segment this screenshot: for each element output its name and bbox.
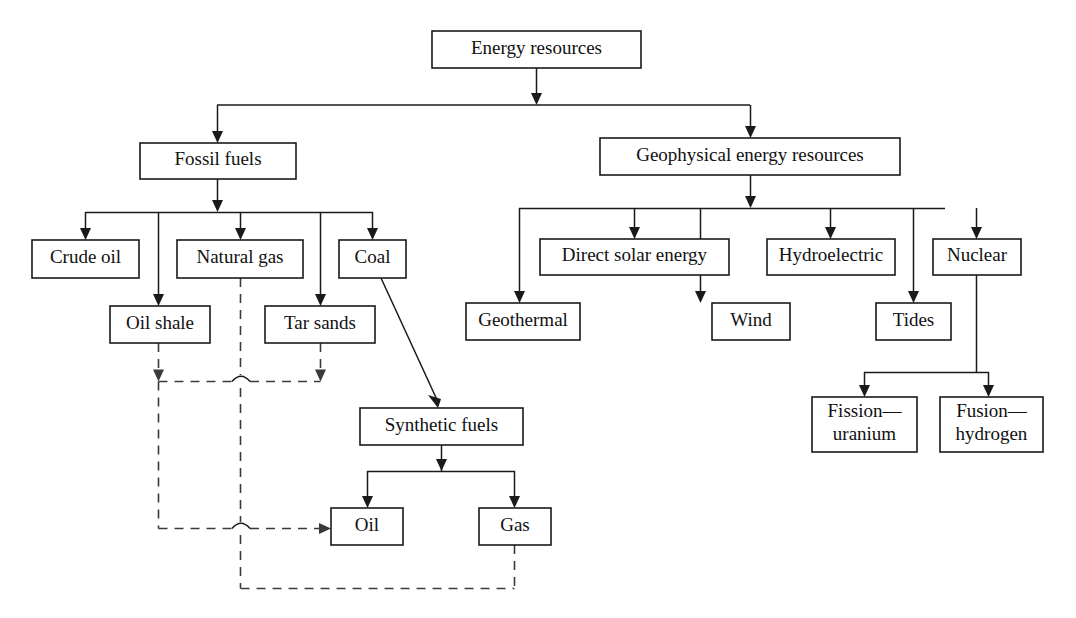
node-hydroelectric[interactable]: Hydroelectric: [767, 239, 895, 275]
arrowhead: [971, 227, 982, 239]
node-nuclear[interactable]: Nuclear: [933, 239, 1021, 275]
node-label-gas: Gas: [500, 514, 530, 535]
node-oil-shale[interactable]: Oil shale: [110, 306, 210, 343]
node-label-geothermal: Geothermal: [478, 309, 568, 330]
node-label-fossil-fuels: Fossil fuels: [174, 148, 261, 169]
line-hop-arc: [232, 523, 250, 528]
node-label-coal: Coal: [355, 246, 391, 267]
node-fission-uranium[interactable]: Fission—uranium: [812, 397, 917, 452]
arrowhead: [153, 370, 164, 382]
arrowhead: [745, 196, 756, 208]
arrowhead: [695, 291, 706, 303]
node-label-tides: Tides: [893, 309, 935, 330]
arrowhead: [153, 294, 164, 306]
node-synthetic-fuels[interactable]: Synthetic fuels: [360, 408, 523, 445]
arrowhead: [319, 523, 331, 534]
node-label-tar-sands: Tar sands: [284, 312, 356, 333]
arrowhead: [436, 459, 447, 471]
node-direct-solar[interactable]: Direct solar energy: [540, 239, 729, 275]
arrowhead: [629, 227, 640, 239]
connector-line: [381, 278, 438, 402]
arrowhead: [859, 385, 870, 397]
node-geophysical[interactable]: Geophysical energy resources: [600, 138, 900, 175]
node-label-oil: Oil: [355, 514, 379, 535]
node-tar-sands[interactable]: Tar sands: [265, 306, 375, 343]
arrowhead: [212, 200, 223, 212]
node-crude-oil[interactable]: Crude oil: [32, 240, 139, 278]
node-tides[interactable]: Tides: [876, 303, 951, 340]
node-fossil-fuels[interactable]: Fossil fuels: [140, 143, 296, 179]
arrowhead: [367, 228, 378, 240]
node-label-natural-gas: Natural gas: [196, 246, 283, 267]
arrowhead: [531, 93, 542, 105]
node-oil[interactable]: Oil: [331, 508, 403, 545]
node-geothermal[interactable]: Geothermal: [466, 303, 580, 340]
node-label-hydroelectric: Hydroelectric: [779, 244, 883, 265]
line-hop-arc: [232, 376, 250, 381]
arrowhead: [428, 395, 441, 408]
node-layer: Energy resourcesFossil fuelsGeophysical …: [32, 31, 1043, 545]
arrowhead: [235, 228, 246, 240]
arrowhead: [825, 227, 836, 239]
node-natural-gas[interactable]: Natural gas: [177, 240, 303, 278]
arrowhead: [908, 291, 919, 303]
node-wind[interactable]: Wind: [712, 303, 790, 340]
arrowhead: [212, 131, 223, 143]
node-label-direct-solar: Direct solar energy: [562, 244, 708, 265]
node-gas[interactable]: Gas: [479, 508, 551, 545]
node-label-geophysical: Geophysical energy resources: [636, 144, 864, 165]
node-fusion-hydrogen[interactable]: Fusion—hydrogen: [940, 397, 1043, 452]
node-label-nuclear: Nuclear: [947, 244, 1008, 265]
node-label-crude-oil: Crude oil: [50, 246, 121, 267]
node-energy-resources[interactable]: Energy resources: [432, 31, 641, 68]
node-label-energy-resources: Energy resources: [471, 37, 602, 58]
arrowhead: [983, 385, 994, 397]
arrowhead: [80, 228, 91, 240]
arrowhead: [509, 496, 520, 508]
arrowhead: [514, 291, 525, 303]
arrowhead: [362, 496, 373, 508]
node-label-oil-shale: Oil shale: [126, 312, 194, 333]
arrowhead: [315, 370, 326, 382]
node-label-wind: Wind: [730, 309, 772, 330]
node-label-synthetic-fuels: Synthetic fuels: [385, 414, 498, 435]
node-coal[interactable]: Coal: [339, 240, 406, 278]
arrowhead: [745, 126, 756, 138]
energy-resources-diagram: Energy resourcesFossil fuelsGeophysical …: [0, 0, 1076, 618]
arrowhead: [315, 294, 326, 306]
diagram-canvas: Energy resourcesFossil fuelsGeophysical …: [0, 0, 1076, 618]
